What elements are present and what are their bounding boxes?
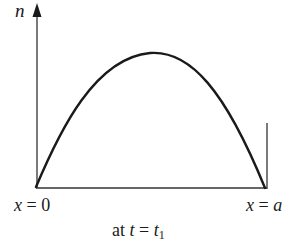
x-start-var: x (14, 195, 22, 215)
y-axis-label: n (15, 0, 25, 22)
x-end-var: x (246, 195, 254, 215)
x-start-eq: = (22, 195, 41, 215)
x-start-label: x = 0 (14, 195, 50, 216)
x-end-label: x = a (246, 195, 282, 216)
y-axis-arrow-icon (33, 3, 42, 17)
time-eq: = (135, 220, 154, 240)
time-caption: at t = t1 (112, 220, 165, 243)
x-end-val: a (273, 195, 282, 215)
time-subscript: 1 (159, 228, 165, 242)
density-curve (36, 53, 265, 188)
x-end-eq: = (254, 195, 273, 215)
x-start-val: 0 (41, 195, 50, 215)
time-caption-prefix: at (112, 220, 130, 240)
